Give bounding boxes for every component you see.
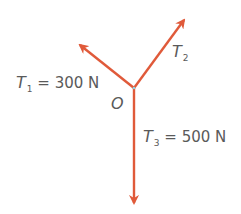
t1-symbol: T — [16, 73, 26, 92]
t2-subscript: 2 — [183, 53, 189, 63]
origin-point — [133, 87, 136, 90]
t1-value: 300 N — [55, 74, 100, 92]
t3-subscript: 3 — [154, 138, 160, 148]
label-t1: T1 = 300 N — [16, 75, 99, 94]
label-t2: T2 — [172, 44, 189, 63]
t1-equals: = — [37, 74, 50, 92]
t3-value: 500 N — [182, 128, 227, 146]
t3-symbol: T — [143, 127, 153, 146]
label-origin: O — [111, 96, 124, 112]
t1-subscript: 1 — [27, 84, 33, 94]
t2-symbol: T — [172, 42, 182, 61]
origin-symbol: O — [111, 94, 124, 113]
label-t3: T3 = 500 N — [143, 129, 226, 148]
t3-equals: = — [164, 128, 177, 146]
